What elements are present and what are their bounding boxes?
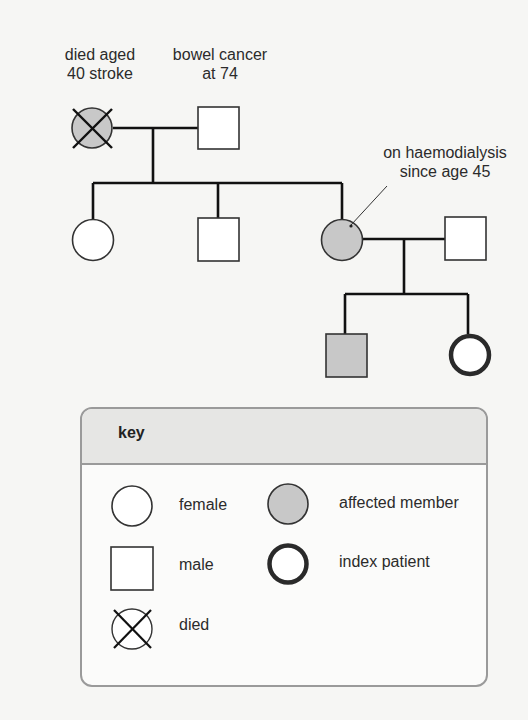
key-label-affected: affected member xyxy=(339,494,459,512)
index-patient-icon xyxy=(270,546,307,583)
died-icon xyxy=(112,609,152,649)
male-icon xyxy=(111,547,153,590)
female-icon xyxy=(112,486,152,526)
annotation-pointer-dot xyxy=(349,224,352,227)
pedigree-lines xyxy=(93,128,468,334)
annotation-pointer xyxy=(351,186,387,225)
grandmother-symbol xyxy=(72,108,112,148)
key-label-female: female xyxy=(179,496,227,514)
key-legend: key female male died affected member ind… xyxy=(80,407,488,687)
key-label-male: male xyxy=(179,556,214,574)
pedigree-chart xyxy=(0,0,528,400)
key-label-died: died xyxy=(179,616,209,634)
grandfather-symbol xyxy=(198,107,239,149)
key-label-index: index patient xyxy=(339,553,430,571)
affected-member-icon xyxy=(268,484,308,524)
father-symbol xyxy=(445,217,486,260)
son-symbol xyxy=(326,334,367,377)
daughter-1-symbol xyxy=(73,220,114,261)
son-1-symbol xyxy=(198,218,239,261)
key-header: key xyxy=(82,409,486,465)
mother-symbol xyxy=(322,220,363,261)
index-patient-symbol xyxy=(451,336,489,374)
key-title: key xyxy=(118,424,145,442)
